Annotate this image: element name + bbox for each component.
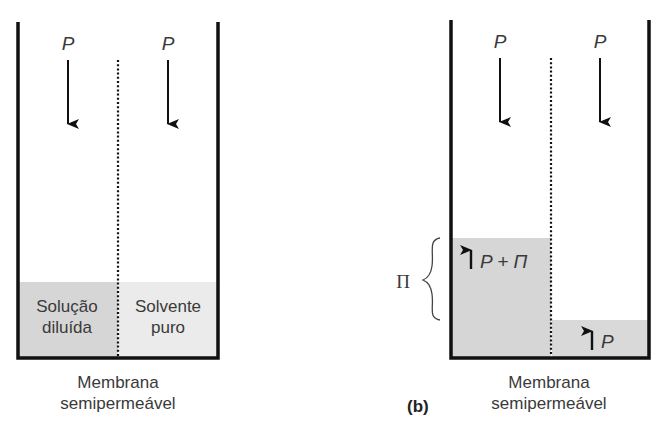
panel-label-b: (b) bbox=[407, 397, 429, 416]
membrane-caption-b: Membrana bbox=[508, 373, 590, 392]
panel-b: P P P + Π P Π Membrana semipermeável (b) bbox=[396, 20, 649, 416]
osmotic-pressure-label: Π bbox=[396, 271, 410, 292]
pressure-label-a-left: P bbox=[62, 33, 75, 54]
dilute-solution-label: Solução bbox=[36, 297, 97, 316]
panel-a: P P Solução diluída Solvente puro Membra… bbox=[18, 22, 218, 413]
pressure-label-b-left: P bbox=[494, 31, 507, 52]
osmosis-diagram: P P Solução diluída Solvente puro Membra… bbox=[0, 0, 658, 447]
pure-solvent-label-2: puro bbox=[151, 318, 185, 337]
membrane-caption-a-2: semipermeável bbox=[60, 394, 175, 413]
dilute-solution-label-2: diluída bbox=[42, 318, 93, 337]
pure-solvent-label: Solvente bbox=[135, 297, 201, 316]
membrane-caption-b-2: semipermeável bbox=[491, 394, 606, 413]
right-fluid-pressure-label: P bbox=[601, 331, 614, 352]
membrane-caption-a: Membrana bbox=[77, 373, 159, 392]
left-fluid-pressure-label: P + Π bbox=[480, 251, 528, 272]
pressure-label-a-right: P bbox=[162, 33, 175, 54]
brace-icon bbox=[423, 238, 440, 320]
solvent-fluid-b bbox=[552, 320, 648, 357]
pressure-label-b-right: P bbox=[594, 31, 607, 52]
